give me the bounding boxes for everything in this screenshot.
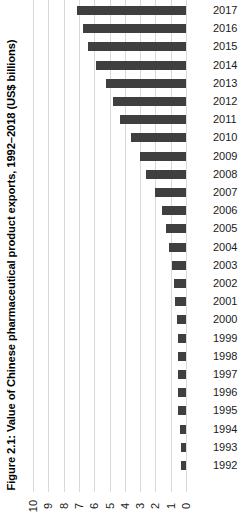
bar [83,24,186,33]
bar [166,224,186,233]
figure-container: Figure 2.1: Value of Chinese pharmaceuti… [0,0,251,530]
bar-row: 2007 [22,184,251,202]
bar [180,425,186,434]
bar [88,42,186,51]
bar-row: 2014 [22,57,251,75]
bar [177,315,186,324]
category-label: 2013 [213,74,237,92]
category-label: 2007 [213,183,237,201]
axis-tick-label: 10 [27,500,39,512]
category-label: 2015 [213,37,237,55]
category-label: 2005 [213,219,237,237]
category-label: 1995 [213,401,237,419]
category-label: 2010 [213,128,237,146]
axis-tick-label: 6 [88,503,100,509]
bar [178,406,186,415]
bar-row: 2012 [22,93,251,111]
bar-row: 2015 [22,38,251,56]
bar [96,61,186,70]
bar-row: 2016 [22,20,251,38]
bar-row: 2013 [22,75,251,93]
bar-row: 1994 [22,421,251,439]
axis-tick-label: 0 [180,503,192,509]
axis-tick-label: 2 [149,503,161,509]
category-label: 2012 [213,92,237,110]
bar-row: 1997 [22,366,251,384]
bar [178,352,186,361]
bar-row: 1996 [22,384,251,402]
bar [131,133,186,142]
bar-row: 2002 [22,275,251,293]
bar [120,115,186,124]
value-axis-ticks: 109876543210 [22,492,251,530]
axis-tick-label: 3 [134,503,146,509]
bar [106,79,186,88]
category-label: 2002 [213,274,237,292]
bar-row: 1993 [22,439,251,457]
bar-row: 1992 [22,457,251,475]
axis-tick-label: 5 [104,503,116,509]
bar-row: 1998 [22,348,251,366]
bar [172,261,186,270]
category-label: 2004 [213,238,237,256]
bar-series: 2017201620152014201320122011201020092008… [22,0,251,492]
bar-row: 2006 [22,202,251,220]
category-label: 1997 [213,365,237,383]
bar-row: 1995 [22,402,251,420]
category-label: 2001 [213,292,237,310]
chart-plot-area: 2017201620152014201320122011201020092008… [22,0,251,530]
bar [181,443,186,452]
figure-title: Figure 2.1: Value of Chinese pharmaceuti… [5,40,17,491]
bar [181,461,186,470]
category-label: 2003 [213,256,237,274]
category-label: 2017 [213,1,237,19]
category-label: 1999 [213,329,237,347]
bar [178,370,186,379]
category-label: 2000 [213,310,237,328]
category-label: 1992 [213,456,237,474]
category-label: 2016 [213,19,237,37]
bar [113,97,186,106]
bar [146,170,186,179]
bar-row: 2003 [22,257,251,275]
category-label: 2011 [213,110,237,128]
bar [77,6,186,15]
axis-tick-label: 1 [165,503,177,509]
axis-tick-label: 7 [73,503,85,509]
bar [140,152,186,161]
axis-tick: 0 [177,492,195,522]
category-label: 1993 [213,438,237,456]
bar-row: 2001 [22,293,251,311]
bar-row: 2008 [22,166,251,184]
category-label: 1998 [213,347,237,365]
bar [169,243,186,252]
axis-tick-label: 4 [119,503,131,509]
bar-row: 2009 [22,148,251,166]
category-label: 1996 [213,383,237,401]
category-label: 2014 [213,56,237,74]
bar [155,188,186,197]
axis-tick-label: 8 [58,503,70,509]
category-label: 2009 [213,147,237,165]
bar-row: 2004 [22,239,251,257]
bar-row: 2010 [22,129,251,147]
figure-title-wrap: Figure 2.1: Value of Chinese pharmaceuti… [0,0,22,530]
bar [175,297,186,306]
bar [178,334,186,343]
bar [178,388,186,397]
bar [162,206,186,215]
bar-row: 2017 [22,2,251,20]
category-label: 2006 [213,201,237,219]
category-label: 1994 [213,420,237,438]
bar-row: 1999 [22,330,251,348]
bar-row: 2005 [22,220,251,238]
axis-tick-label: 9 [42,503,54,509]
bar-row: 2000 [22,311,251,329]
bar [174,279,186,288]
bar-row: 2011 [22,111,251,129]
category-label: 2008 [213,165,237,183]
